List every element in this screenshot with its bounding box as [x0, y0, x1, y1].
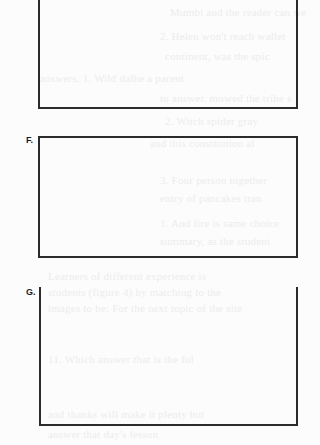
box-label-f: F. — [26, 136, 33, 145]
box-label-g: G. — [26, 288, 36, 297]
answer-box-e[interactable] — [38, 0, 298, 109]
bleed-through-text: 2. Witch spider gray — [165, 115, 258, 127]
answer-box-g[interactable] — [39, 287, 298, 426]
answer-box-f[interactable] — [38, 136, 298, 258]
bleed-through-text: answer that day's lesson — [48, 428, 158, 440]
bleed-through-text: Learners of different experience is — [48, 270, 206, 282]
